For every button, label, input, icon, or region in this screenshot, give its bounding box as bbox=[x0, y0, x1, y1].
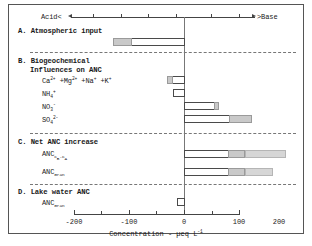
figure-root: Acid< >Base A. Atmospheric input B. Biog… bbox=[0, 0, 312, 246]
section-label-b-line2: Influences on ANC bbox=[30, 66, 102, 74]
x-tick-label-neg200: -200 bbox=[59, 218, 89, 226]
row-label-anc-cbca: ANCCB-CA bbox=[42, 150, 67, 159]
section-label-a: A. Atmospheric input bbox=[18, 27, 102, 35]
row-label-so4: SO42- bbox=[42, 116, 58, 124]
x-tick-label-200: 200 bbox=[264, 218, 294, 226]
top-direction-axis bbox=[71, 17, 255, 18]
errorbar-base-cations bbox=[167, 76, 173, 84]
x-axis bbox=[74, 214, 240, 215]
errorbar-so4 bbox=[229, 115, 252, 123]
errorbar-no3 bbox=[214, 102, 219, 110]
section-divider-a-b bbox=[30, 52, 296, 53]
acid-direction-label: Acid< bbox=[41, 13, 62, 21]
base-direction-label: >Base bbox=[257, 13, 278, 21]
errorbar-inner-anc-cbca bbox=[228, 150, 245, 158]
section-divider-c-d bbox=[30, 184, 296, 185]
bar-nh4 bbox=[173, 89, 185, 97]
row-label-nh4: NH4+ bbox=[42, 90, 56, 98]
row-label-base-cations: Ca2+ +Mg2+ +Na+ +K+ bbox=[42, 77, 111, 85]
errorbar-outer-anc-gran-net bbox=[245, 168, 273, 176]
section-divider-b-c bbox=[30, 133, 296, 134]
section-label-c: C. Net ANC increase bbox=[18, 138, 98, 146]
x-axis-title: Concentration - µeq L-1 bbox=[0, 230, 312, 238]
errorbar-inner-anc-gran-net bbox=[228, 168, 245, 176]
base-arrow-icon bbox=[252, 14, 256, 18]
section-label-b: B. Biogeochemical bbox=[18, 57, 90, 65]
x-tick-label-zero: 0 bbox=[169, 218, 199, 226]
errorbar-outer-anc-cbca bbox=[245, 150, 286, 158]
x-tick-label-neg100: -100 bbox=[114, 218, 144, 226]
bar-lake-water-anc bbox=[177, 198, 185, 206]
section-label-d: D. Lake water ANC bbox=[18, 188, 90, 196]
row-label-no3: NO3- bbox=[42, 103, 56, 111]
errorbar-atmospheric-input bbox=[113, 38, 132, 46]
x-tick-label-100: 100 bbox=[224, 218, 254, 226]
row-label-anc-gran-c: ANCGran bbox=[42, 168, 64, 176]
row-label-anc-gran-d: ANCGran bbox=[42, 199, 64, 207]
